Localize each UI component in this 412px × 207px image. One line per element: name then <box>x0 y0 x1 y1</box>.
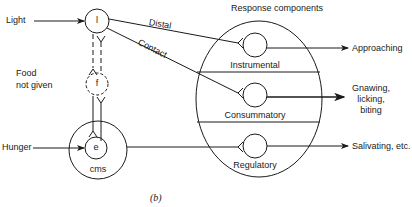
synapse-instrumental <box>238 38 243 48</box>
contact-line <box>107 28 238 93</box>
regulatory-circle <box>243 134 267 158</box>
synapse-fork-f-bottom <box>97 97 105 103</box>
gnawing-label-line3: biting <box>348 105 394 116</box>
response-components-ellipse <box>196 21 322 177</box>
salivating-label: Salivating, etc. <box>352 141 411 152</box>
gnawing-label-line2: licking, <box>348 94 394 105</box>
synapse-fork-l <box>97 36 105 42</box>
consummatory-label: Consummatory <box>215 110 295 121</box>
instrumental-label: Instrumental <box>220 60 290 71</box>
node-f-label: f <box>91 78 103 89</box>
cms-label: cms <box>83 164 113 175</box>
approaching-label: Approaching <box>352 43 403 54</box>
response-components-title: Response components <box>231 3 323 14</box>
synapse-consummatory <box>238 88 243 98</box>
gnawing-label-line1: Gnawing, <box>348 83 394 94</box>
food-label-line2: not given <box>16 80 53 91</box>
light-label: Light <box>6 15 26 26</box>
hunger-label: Hunger <box>2 142 32 153</box>
synapse-regulatory <box>238 142 243 152</box>
consummatory-circle <box>243 83 267 107</box>
food-label-line1: Food <box>16 68 37 79</box>
node-l-label: l <box>91 15 103 26</box>
node-e-label: e <box>90 142 102 153</box>
synapse-fork-e <box>89 131 97 137</box>
figure-caption: (b) <box>150 192 162 203</box>
regulatory-label: Regulatory <box>220 160 290 171</box>
instrumental-circle <box>243 33 267 57</box>
